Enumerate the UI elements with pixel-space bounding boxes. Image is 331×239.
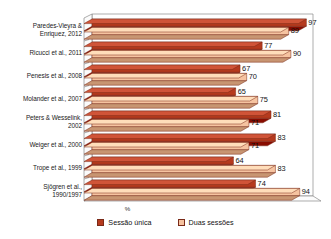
category-label: Sjögren et al.,1990/1997	[0, 183, 82, 198]
value-label: 83	[277, 134, 285, 142]
value-label: 75	[260, 96, 268, 104]
x-axis-title: %	[0, 205, 331, 212]
bar-top-face	[84, 119, 249, 124]
bar-front-face	[84, 35, 289, 40]
bar-top-face	[84, 188, 300, 193]
bar-top-face	[84, 50, 291, 55]
value-label: 83	[277, 165, 285, 173]
bar-front-face	[84, 104, 258, 109]
value-label: 64	[235, 157, 243, 165]
category-label: Paredes-Vieyra &Enriquez, 2012	[0, 22, 82, 37]
value-label: 97	[308, 19, 316, 27]
category-label: Ricucci et al., 2011	[0, 49, 82, 57]
legend-item-sessao-unica[interactable]: Sessão única	[97, 218, 151, 227]
bar-top-face	[84, 42, 262, 47]
legend-label-duas-sessoes: Duas sessões	[189, 218, 234, 227]
bar-top-face	[84, 142, 249, 147]
category-label: Molander et al., 2007	[0, 95, 82, 103]
category-label: Penesis et al., 2008	[0, 72, 82, 80]
bar-front-face	[84, 58, 291, 63]
bar-chart: Paredes-Vieyra &Enriquez, 2012Ricucci et…	[0, 0, 331, 239]
value-label: 89	[291, 27, 299, 35]
legend-swatch-duas-sessoes	[178, 219, 185, 226]
value-label: 71	[251, 142, 259, 150]
bar-top-face	[84, 157, 233, 162]
category-axis-labels: Paredes-Vieyra &Enriquez, 2012Ricucci et…	[0, 0, 84, 200]
legend-swatch-sessao-unica	[97, 219, 104, 226]
x-axis-title-text: %	[125, 205, 131, 212]
bar-front-face	[84, 127, 249, 132]
bar-front-face	[84, 196, 300, 201]
value-label: 90	[293, 50, 301, 58]
bar-top-face	[84, 134, 275, 139]
bar-front-face	[84, 150, 249, 155]
bar-top-face	[84, 165, 275, 170]
category-label: Weiger et al., 2000	[0, 141, 82, 149]
bar-top-face	[84, 88, 236, 93]
bar-top-face	[84, 19, 306, 24]
value-label: 81	[273, 111, 281, 119]
value-label: 65	[238, 88, 246, 96]
value-label: 94	[302, 188, 310, 196]
value-label: 70	[249, 73, 257, 81]
bar-top-face	[84, 27, 289, 32]
bar-top-face	[84, 96, 258, 101]
bar-top-face	[84, 65, 240, 70]
value-label: 77	[264, 42, 272, 50]
bar-front-face	[84, 173, 275, 178]
category-label: Trope et al., 1999	[0, 164, 82, 172]
category-label: Peters & Wesselink,2002	[0, 114, 82, 129]
value-label: 71	[251, 119, 259, 127]
bar-front-face	[84, 81, 247, 86]
bar-top-face	[84, 180, 256, 185]
chart-legend: Sessão única Duas sessões	[0, 218, 331, 227]
bar-top-face	[84, 111, 271, 116]
legend-item-duas-sessoes[interactable]: Duas sessões	[178, 218, 234, 227]
bar-top-face	[84, 73, 247, 78]
value-label: 74	[258, 180, 266, 188]
legend-label-sessao-unica: Sessão única	[108, 218, 151, 227]
